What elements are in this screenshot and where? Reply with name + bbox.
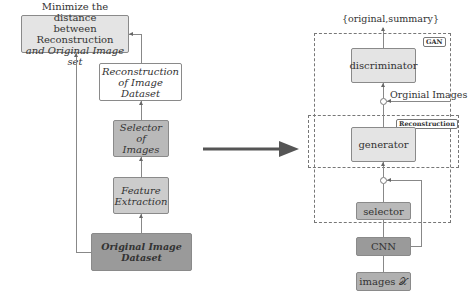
arrowhead-icon xyxy=(387,178,391,182)
connector-recon-min-v xyxy=(141,34,142,63)
discriminator-box: discriminator xyxy=(351,48,416,83)
connector-sel-circ xyxy=(383,184,384,202)
cnn-box: CNN xyxy=(356,237,411,256)
connector-orig-images xyxy=(387,101,450,102)
connector-gen-circ xyxy=(383,105,384,127)
right-arrow-icon xyxy=(203,139,299,159)
selector-line2: Images xyxy=(114,144,168,155)
connector-images-cnn xyxy=(383,256,384,272)
generator-label: generator xyxy=(358,139,408,150)
minimize-line1: Minimize the distance xyxy=(22,1,128,23)
connector-orig-min-h xyxy=(76,252,91,253)
images-label: images 𝒳 xyxy=(359,276,407,287)
arrowhead-icon xyxy=(381,83,385,87)
reconstruction-line2: of Image Dataset xyxy=(100,77,181,99)
feature-line2: Extraction xyxy=(115,196,168,207)
images-box: images 𝒳 xyxy=(356,272,411,291)
connector-cnn-loop-h-top xyxy=(387,180,422,181)
arrowhead-icon xyxy=(139,214,143,218)
output-label: {original,summary} xyxy=(342,13,439,24)
arrowhead-icon xyxy=(381,162,385,166)
reconstruction-line1: Reconstruction xyxy=(100,66,181,77)
arrowhead-icon xyxy=(74,53,78,57)
feature-line1: Feature xyxy=(115,185,168,196)
junction-circle-bottom xyxy=(380,177,387,184)
arrowhead-icon xyxy=(129,32,133,36)
selector-images-box: Selector of Images xyxy=(113,120,169,157)
generator-box: generator xyxy=(351,127,416,162)
discriminator-label: discriminator xyxy=(349,60,417,71)
minimize-distance-box: Minimize the distance between Reconstruc… xyxy=(21,15,129,53)
selector-box: selector xyxy=(356,202,411,220)
gan-tag: GAN xyxy=(423,37,446,47)
selector-line1: Selector of xyxy=(114,122,168,144)
arrowhead-icon xyxy=(139,101,143,105)
connector-cnn-loop-h-bottom xyxy=(411,246,422,247)
reconstruction-dataset-box: Reconstruction of Image Dataset xyxy=(99,63,182,101)
original-dataset-box: Original Image Dataset xyxy=(91,233,192,271)
arrowhead-icon xyxy=(381,27,385,31)
original-dataset-label: Original Image Dataset xyxy=(92,241,191,263)
junction-circle-top xyxy=(380,98,387,105)
connector-orig-min-v xyxy=(76,53,77,253)
feature-extraction-box: Feature Extraction xyxy=(113,177,169,214)
selector-label: selector xyxy=(363,206,404,217)
connector-cnn-selector xyxy=(383,220,384,237)
cnn-label: CNN xyxy=(371,241,396,252)
original-images-label: Orginial Images xyxy=(390,89,467,100)
connector-cnn-loop-v xyxy=(421,180,422,247)
arrowhead-icon xyxy=(139,157,143,161)
minimize-line2: between Reconstruction xyxy=(22,23,128,45)
